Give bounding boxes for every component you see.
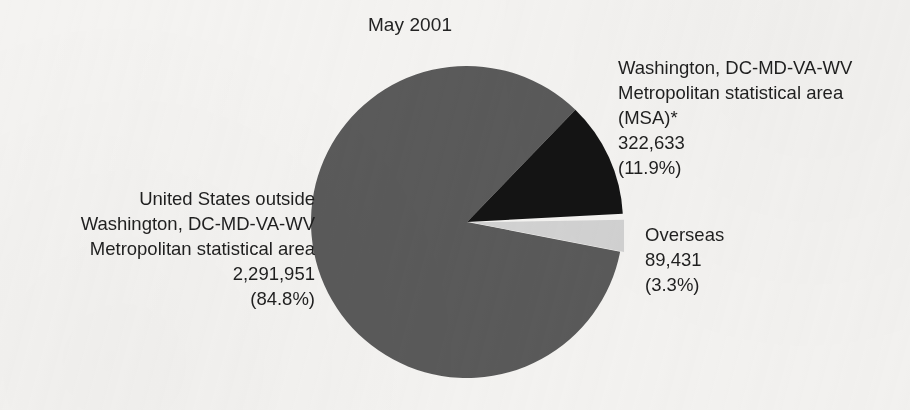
pie-label-us-outside: United States outside Washington, DC-MD-… [81, 186, 315, 311]
chart-title: May 2001 [0, 14, 865, 36]
pie-label-msa: Washington, DC-MD-VA-WV Metropolitan sta… [618, 55, 852, 180]
label-percent: (11.9%) [618, 155, 852, 180]
label-value: 89,431 [645, 247, 724, 272]
label-line: Metropolitan statistical area [81, 236, 315, 261]
label-line: Washington, DC-MD-VA-WV [618, 55, 852, 80]
label-line: (MSA)* [618, 105, 852, 130]
pie-label-overseas: Overseas 89,431 (3.3%) [645, 222, 724, 297]
label-value: 2,291,951 [81, 261, 315, 286]
pie-chart-figure: May 2001 United States outside Washingto… [0, 0, 910, 410]
label-value: 322,633 [618, 130, 852, 155]
pie-chart-graphic [310, 65, 624, 379]
label-percent: (3.3%) [645, 272, 724, 297]
pie-svg [310, 65, 624, 379]
label-line: United States outside [81, 186, 315, 211]
label-line: Metropolitan statistical area [618, 80, 852, 105]
label-line: Overseas [645, 222, 724, 247]
label-line: Washington, DC-MD-VA-WV [81, 211, 315, 236]
label-percent: (84.8%) [81, 286, 315, 311]
